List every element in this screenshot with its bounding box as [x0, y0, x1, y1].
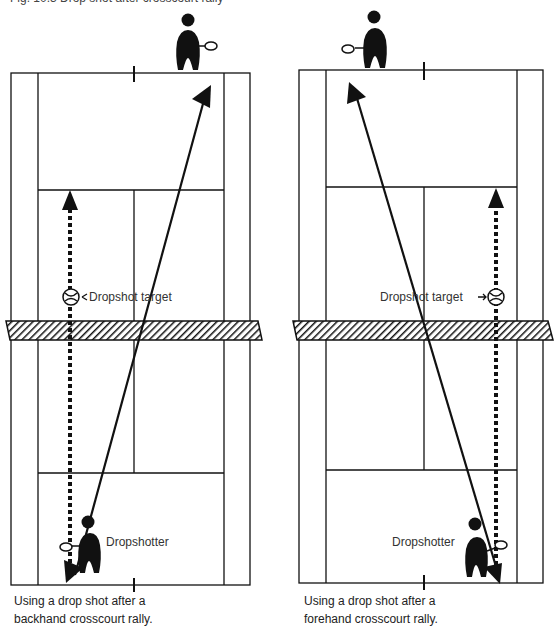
left-dropshot-arrow	[62, 190, 78, 570]
right-target-label: Dropshot target	[380, 290, 463, 304]
right-target-pointer-icon	[478, 294, 486, 300]
right-caption: Using a drop shot after a forehand cross…	[304, 592, 438, 628]
left-caption: Using a drop shot after a backhand cross…	[14, 592, 153, 628]
right-ball-icon	[488, 289, 504, 305]
right-caption-line1: Using a drop shot after a	[304, 592, 438, 610]
left-caption-line2: backhand crosscourt rally.	[14, 610, 153, 628]
left-ball-icon	[63, 289, 79, 305]
left-net	[6, 321, 262, 340]
left-caption-line1: Using a drop shot after a	[14, 592, 153, 610]
left-target-pointer-icon	[82, 294, 87, 300]
left-opponent-figure-icon	[176, 14, 217, 71]
left-target-label: Dropshot target	[89, 290, 172, 304]
right-caption-line2: forehand crosscourt rally.	[304, 610, 438, 628]
right-opponent-figure-icon	[342, 11, 387, 69]
right-dropshotter-label: Dropshotter	[392, 535, 455, 549]
diagram-canvas	[0, 0, 559, 631]
right-dropshot-arrow	[488, 188, 504, 565]
left-dropshotter-label: Dropshotter	[106, 535, 169, 549]
